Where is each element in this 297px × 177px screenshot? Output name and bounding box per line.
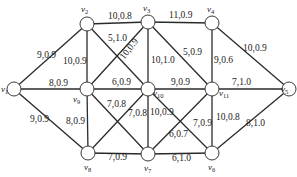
edge-label: 10,0.8 xyxy=(108,11,132,21)
node-v3 xyxy=(141,15,155,29)
edge-label: 5,1.0 xyxy=(108,33,127,43)
node-label-v3: v3 xyxy=(143,3,150,14)
node-label-v2: v2 xyxy=(81,4,88,15)
node-v8 xyxy=(81,146,95,160)
edge-label: 5,0.9 xyxy=(183,47,202,57)
edge-label: 10,0.9 xyxy=(150,107,174,117)
edge-label: 7,0.9 xyxy=(193,118,212,128)
edge-label: 8,0.9 xyxy=(66,116,85,126)
edge-label: 10,0.9 xyxy=(63,56,87,66)
edge-label: 6,0.9 xyxy=(112,77,131,87)
edge-v2-v3 xyxy=(87,22,148,24)
edge-label: 7,0.9 xyxy=(108,152,127,162)
edge-label: 9,0.9 xyxy=(30,114,49,124)
node-v1 xyxy=(7,82,21,96)
edge-label: 10,1.0 xyxy=(151,55,175,65)
edge-label: 9,0.9 xyxy=(171,77,190,87)
node-v9 xyxy=(80,82,94,96)
network-graph: 9,0.98,0.99,0.910,0.810,0.95,1.010,0.911… xyxy=(0,0,297,177)
edge-label: 7,0.8 xyxy=(128,108,147,118)
node-v11 xyxy=(205,82,219,96)
node-label-v1: v1 xyxy=(1,84,8,95)
edge-label: 10,0.9 xyxy=(243,43,267,53)
edge-label: 6,1.0 xyxy=(172,153,191,163)
node-v4 xyxy=(205,16,219,30)
edge-label: 8,1.0 xyxy=(246,118,265,128)
node-label-v8: v8 xyxy=(84,162,91,173)
node-v7 xyxy=(141,147,155,161)
edge-label: 7,1.0 xyxy=(232,77,251,87)
node-v2 xyxy=(80,17,94,31)
edge-label: 8,0.9 xyxy=(49,78,68,88)
node-label-v7: v7 xyxy=(144,163,152,174)
edge-label: 10,0.8 xyxy=(216,112,240,122)
edge-label: 9,0.9 xyxy=(37,50,56,60)
node-label-v6: v6 xyxy=(208,162,216,173)
node-label-v4: v4 xyxy=(207,4,215,15)
edge-v9-v8 xyxy=(87,89,88,153)
edge-v3-v4 xyxy=(148,22,212,23)
node-label-v9: v9 xyxy=(73,94,80,105)
node-v6 xyxy=(205,146,219,160)
edge-label: 11,0.9 xyxy=(169,10,193,20)
edge-label: 7,0.8 xyxy=(107,99,126,109)
nodes-layer xyxy=(7,15,296,161)
edge-label: 6,0.7 xyxy=(169,129,188,139)
edge-label: 9,0.6 xyxy=(214,55,233,65)
